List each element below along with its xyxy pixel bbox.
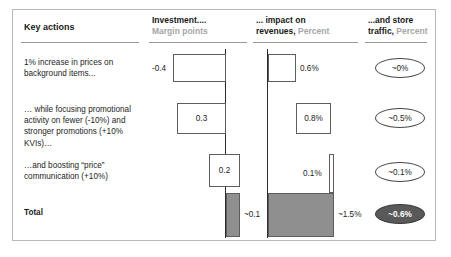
header-traffic-title2: traffic, (368, 26, 394, 36)
bar-revenues-total (268, 193, 334, 237)
header-investment: Investment.... Margin points (152, 15, 208, 36)
chart-panel: Key actions Investment.... Margin points… (12, 9, 436, 241)
header-rule-investment (149, 42, 247, 43)
row-label-2: … while focusing promotional activity on… (24, 104, 148, 149)
pill-traffic-2: ~0.5% (375, 108, 425, 128)
chart-header: Key actions Investment.... Margin points… (13, 10, 435, 43)
header-traffic: ...and store traffic, Percent (368, 15, 428, 36)
pill-traffic-3: ~0.1% (375, 162, 425, 182)
bar-value-investment-3: 0.2 (209, 154, 240, 187)
bar-value-revenues-2: 0.8% (296, 103, 331, 134)
header-investment-unit: Margin points (152, 26, 208, 37)
header-traffic-title: ...and store (368, 15, 428, 26)
bar-value-revenues-1: 0.6% (300, 64, 319, 73)
pill-traffic-total: ~0.6% (375, 204, 425, 224)
header-rule-revenues (253, 42, 358, 43)
bar-value-investment-1: -0.4 (152, 64, 166, 73)
header-traffic-subtitle: traffic, Percent (368, 26, 428, 37)
bar-value-revenues-total: ~1.5% (338, 210, 361, 219)
header-traffic-unit: Percent (396, 26, 427, 36)
header-key-actions: Key actions (24, 22, 75, 33)
header-investment-title: Investment.... (152, 15, 208, 26)
header-revenues-title: ... impact on (256, 15, 329, 26)
bar-value-revenues-3: 0.1% (303, 169, 322, 178)
row-label-3: …and boosting “price” communication (+10… (24, 160, 148, 182)
header-revenues: ... impact on revenues, Percent (256, 15, 329, 36)
pill-traffic-1: ~0% (375, 58, 425, 78)
header-rule-key (21, 42, 139, 43)
header-revenues-unit: Percent (298, 26, 329, 36)
bar-revenues-1 (268, 54, 296, 82)
row-label-total: Total (24, 207, 148, 218)
row-label-1: 1% increase in prices on background item… (24, 57, 148, 79)
bar-revenues-3 (329, 154, 334, 193)
bar-value-investment-2: 0.3 (177, 103, 226, 134)
header-rule-traffic (365, 42, 427, 43)
bar-investment-total (226, 193, 240, 237)
header-revenues-subtitle: revenues, Percent (256, 26, 329, 37)
bar-investment-1 (173, 54, 226, 82)
bar-value-investment-total: ~0.1 (244, 210, 260, 219)
header-revenues-title2: revenues, (256, 26, 296, 36)
